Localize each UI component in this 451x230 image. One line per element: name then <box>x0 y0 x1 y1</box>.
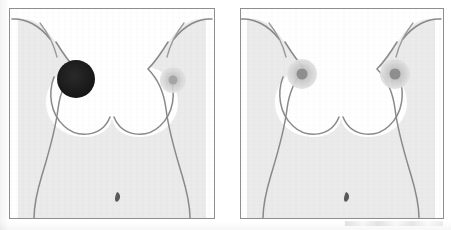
nipple-areola-left-abnormal <box>57 60 95 98</box>
torso-silhouette <box>18 19 206 218</box>
nipple-center-right <box>169 76 178 85</box>
nipple-center-left <box>297 69 308 80</box>
torso-silhouette <box>247 19 435 218</box>
illustration-panel-right <box>240 8 444 219</box>
torso-diagram-right <box>241 9 443 218</box>
page-edge-shadow-left <box>0 0 9 230</box>
caption-smudge-artifact <box>345 221 443 226</box>
torso-diagram-left <box>10 9 214 218</box>
illustration-panel-left <box>9 8 215 219</box>
figure-root <box>0 0 451 230</box>
nipple-center-right <box>390 69 401 80</box>
